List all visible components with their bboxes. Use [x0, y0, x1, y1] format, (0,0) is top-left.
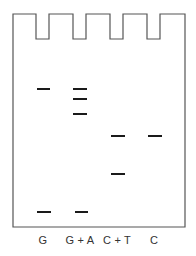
band-lane-2-1 [73, 88, 87, 90]
band-lane-2-4 [75, 211, 88, 213]
band-lane-2-3 [73, 113, 87, 115]
lane-label-g: G [23, 234, 63, 246]
lane-label-c-plus-t: C + T [97, 234, 137, 246]
band-lane-1-1 [37, 88, 50, 90]
gel-diagram [0, 0, 196, 256]
band-lane-3-1 [111, 135, 125, 137]
band-lane-2-2 [73, 98, 87, 100]
band-lane-3-2 [111, 173, 125, 175]
bands [37, 88, 162, 213]
gel-outline [13, 14, 185, 227]
band-lane-4-1 [148, 135, 162, 137]
lane-label-g-plus-a: G + A [60, 234, 100, 246]
lane-label-c: C [134, 234, 174, 246]
band-lane-1-2 [37, 211, 51, 213]
